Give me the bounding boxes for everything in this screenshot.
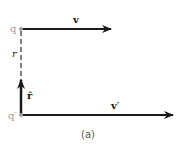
figure-caption: (a) — [81, 129, 95, 140]
diagram-canvas: v r r̂ v′ q q′ (a) — [0, 0, 186, 156]
charge-q-label: q — [10, 23, 17, 34]
separation-r-label: r — [12, 48, 18, 59]
charge-q-prime-label: q′ — [8, 110, 17, 121]
charge-q-prime-point — [19, 113, 23, 117]
velocity-v-label: v — [72, 14, 80, 25]
charge-q-point — [19, 27, 23, 31]
velocity-v-prime-label: v′ — [110, 100, 120, 111]
unit-vector-r-hat-label: r̂ — [27, 90, 33, 101]
